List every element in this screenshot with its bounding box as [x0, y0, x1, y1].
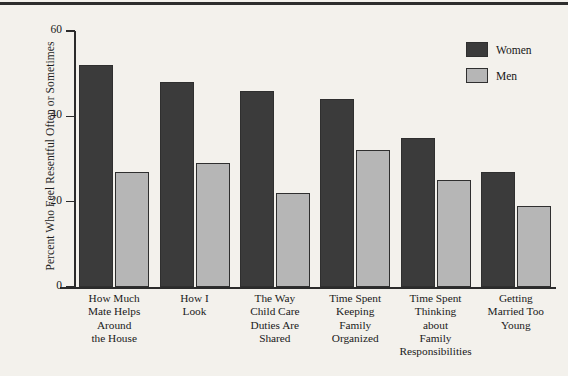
- category-label-line: Responsibilities: [389, 345, 481, 358]
- bar-women: [481, 172, 515, 287]
- category-label-line: about: [389, 319, 481, 332]
- bar-women: [401, 138, 435, 287]
- bar-men: [517, 206, 551, 287]
- chart-legend: WomenMen: [466, 42, 531, 94]
- category-label-line: Young: [470, 319, 562, 332]
- category-label-line: Look: [148, 305, 240, 318]
- legend-label: Women: [496, 44, 531, 56]
- legend-item-women: Women: [466, 42, 531, 57]
- bar-men: [356, 150, 390, 287]
- category-label-line: Getting: [470, 292, 562, 305]
- bar-men: [115, 172, 149, 287]
- category-label-line: Organized: [309, 332, 401, 345]
- category-label-line: Married Too: [470, 305, 562, 318]
- category-label-line: Duties Are: [229, 319, 321, 332]
- category-label-line: Family: [309, 319, 401, 332]
- bar-group: [240, 31, 310, 287]
- bar-chart-figure: Percent Who Feel Resentful Often or Some…: [0, 0, 568, 376]
- category-label-line: Time Spent: [309, 292, 401, 305]
- bar-women: [320, 99, 354, 287]
- legend-item-men: Men: [466, 68, 531, 83]
- x-axis-category-label: GettingMarried TooYoung: [470, 292, 562, 332]
- x-axis-category-label: The WayChild CareDuties AreShared: [229, 292, 321, 345]
- y-axis-tick-label: 40: [22, 108, 62, 120]
- bar-women: [79, 65, 113, 287]
- bar-men: [437, 180, 471, 287]
- y-axis-title: Percent Who Feel Resentful Often or Some…: [44, 16, 56, 296]
- x-axis-category-label: Time SpentThinkingaboutFamilyResponsibil…: [389, 292, 481, 358]
- x-axis-category-label: Time SpentKeepingFamilyOrganized: [309, 292, 401, 345]
- x-axis-category-label: How MuchMate HelpsAroundthe House: [68, 292, 160, 345]
- legend-swatch-men: [466, 68, 488, 83]
- category-label-line: Thinking: [389, 305, 481, 318]
- bar-group: [79, 31, 149, 287]
- y-axis-tick-label: 60: [22, 23, 62, 35]
- bar-women: [240, 91, 274, 287]
- category-label-line: Time Spent: [389, 292, 481, 305]
- category-label-line: How Much: [68, 292, 160, 305]
- bar-men: [196, 163, 230, 287]
- x-axis-category-label: How ILook: [148, 292, 240, 319]
- category-label-line: How I: [148, 292, 240, 305]
- y-axis-tick-label: 20: [22, 194, 62, 206]
- top-rule-divider: [0, 2, 568, 5]
- bar-group: [320, 31, 390, 287]
- category-label-line: The Way: [229, 292, 321, 305]
- legend-swatch-women: [466, 42, 488, 57]
- bar-group: [160, 31, 230, 287]
- x-axis-line: [60, 287, 556, 289]
- bar-group: [401, 31, 471, 287]
- bar-men: [276, 193, 310, 287]
- bar-women: [160, 82, 194, 287]
- category-label-line: Around: [68, 319, 160, 332]
- y-axis-tick-label: 0: [22, 279, 62, 291]
- category-label-line: Family: [389, 332, 481, 345]
- category-label-line: Mate Helps: [68, 305, 160, 318]
- category-label-line: Child Care: [229, 305, 321, 318]
- category-label-line: Shared: [229, 332, 321, 345]
- category-label-line: the House: [68, 332, 160, 345]
- category-label-line: Keeping: [309, 305, 401, 318]
- legend-label: Men: [496, 70, 517, 82]
